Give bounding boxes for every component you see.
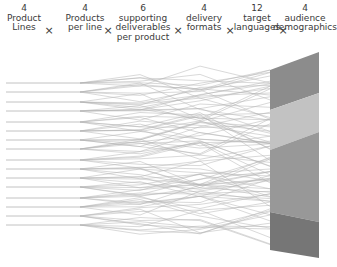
multiply-icon: ×	[44, 24, 53, 37]
factor-column: 6supporting deliverables per product	[116, 4, 171, 42]
multiply-icon: ×	[225, 24, 234, 37]
factor-column: 4Products per line	[66, 4, 105, 33]
multiply-icon: ×	[173, 24, 182, 37]
connection-lines	[6, 66, 270, 245]
factor-column: 4delivery formats	[186, 4, 222, 33]
multiply-icon: ×	[103, 24, 112, 37]
factor-label: Product Lines	[7, 14, 41, 33]
factor-label: supporting deliverables per product	[116, 14, 171, 43]
factor-label: delivery formats	[186, 14, 222, 33]
factor-column: 4Product Lines	[7, 4, 41, 33]
multiply-icon: ×	[278, 24, 287, 37]
factor-label: Products per line	[66, 14, 105, 33]
